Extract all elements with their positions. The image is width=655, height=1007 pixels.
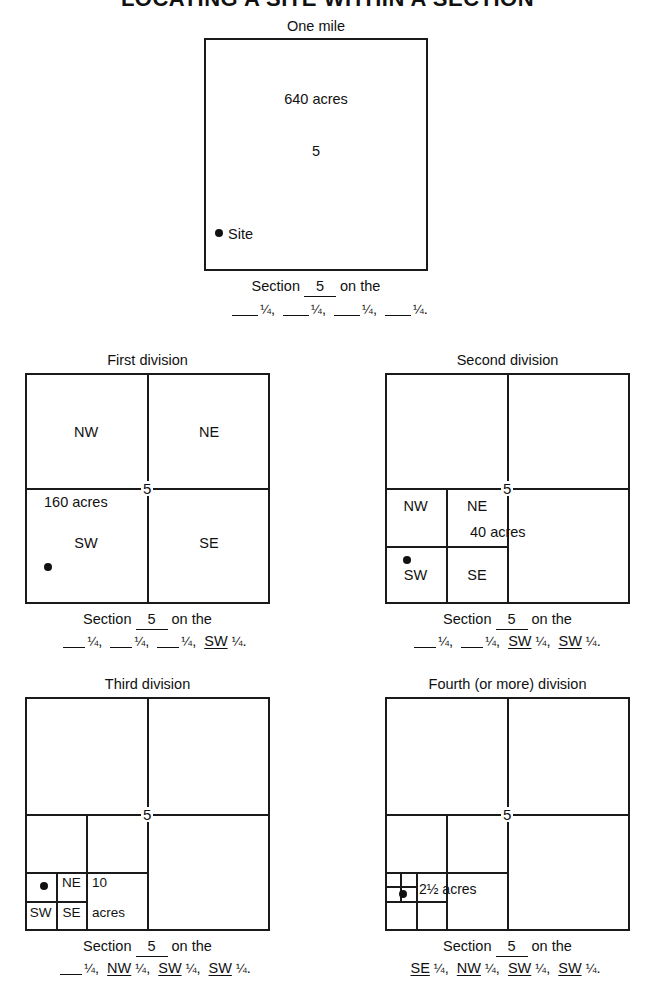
page-title: LOCATING A SITE WITHIN A SECTION bbox=[0, 0, 655, 12]
second-division-sub-hline bbox=[385, 546, 507, 548]
caption-suffix: on the bbox=[172, 611, 212, 627]
quarter-slot-4: SW ¼. bbox=[558, 960, 600, 976]
caption-suffix: on the bbox=[532, 938, 572, 954]
quarter-slot-3: ¼, bbox=[157, 633, 196, 649]
quarter-slot-2: ¼, bbox=[283, 301, 326, 317]
third-division-sub-hline bbox=[25, 872, 147, 874]
quarter-slot-4: ¼. bbox=[385, 301, 428, 317]
second-division-caption-line1: Section 5 on the bbox=[385, 609, 630, 630]
caption-prefix: Section bbox=[443, 938, 491, 954]
fourth-division-caption-line1: Section 5 on the bbox=[385, 936, 630, 957]
fourth-division-section-number: 5 bbox=[501, 807, 513, 822]
first-division-acres: 160 acres bbox=[44, 494, 108, 510]
full-section-acres: 640 acres bbox=[204, 91, 428, 107]
third-division-sub2-hline bbox=[25, 901, 86, 903]
quarter-slot-2: NW ¼, bbox=[107, 960, 150, 976]
second-division-sw: SW bbox=[385, 567, 446, 583]
quarter-slot-2: ¼, bbox=[461, 633, 500, 649]
fourth-division-acres: 2½ acres bbox=[419, 881, 477, 897]
first-division-nw: NW bbox=[25, 424, 147, 440]
quarter-slot-3: SW ¼, bbox=[158, 960, 200, 976]
caption-section-number: 5 bbox=[136, 609, 168, 630]
caption-prefix: Section bbox=[83, 611, 131, 627]
quarter-slot-1: ¼, bbox=[60, 960, 99, 976]
one-mile-label: One mile bbox=[204, 18, 428, 34]
third-division-caption-line1: Section 5 on the bbox=[25, 936, 270, 957]
quarter-slot-2: ¼, bbox=[110, 633, 149, 649]
fourth-division-sub-hline bbox=[385, 872, 507, 874]
full-section-caption-line1: Section 5 on the bbox=[204, 276, 428, 297]
caption-section-number: 5 bbox=[304, 276, 336, 297]
quarter-slot-1: SE ¼, bbox=[410, 960, 448, 976]
third-division-section-number: 5 bbox=[141, 807, 153, 822]
second-division-nw: NW bbox=[385, 498, 446, 514]
third-division-caption-line2: ¼, NW ¼, SW ¼, SW ¼. bbox=[8, 958, 303, 979]
second-division-section-number: 5 bbox=[501, 481, 513, 496]
third-division-heading: Third division bbox=[25, 676, 270, 692]
caption-prefix: Section bbox=[443, 611, 491, 627]
fourth-division-sub3-hline bbox=[385, 886, 416, 888]
second-division-ne: NE bbox=[447, 498, 507, 514]
second-division-se: SE bbox=[447, 567, 507, 583]
caption-prefix: Section bbox=[252, 278, 300, 294]
quarter-slot-2: NW ¼, bbox=[457, 960, 500, 976]
quarter-slot-1: ¼, bbox=[414, 633, 453, 649]
caption-suffix: on the bbox=[532, 611, 572, 627]
quarter-slot-3: ¼, bbox=[334, 301, 377, 317]
quarter-slot-1: ¼, bbox=[63, 633, 102, 649]
quarter-slot-4: SW ¼. bbox=[209, 960, 251, 976]
first-division-caption-line2: ¼, ¼, ¼, SW ¼. bbox=[10, 631, 300, 652]
site-dot-icon bbox=[40, 882, 48, 890]
first-division-caption-line1: Section 5 on the bbox=[25, 609, 270, 630]
third-division-acres-unit: acres bbox=[92, 905, 125, 920]
third-division-sw: SW bbox=[25, 905, 56, 920]
quarter-slot-3: SW ¼, bbox=[508, 633, 550, 649]
second-division-heading: Second division bbox=[385, 352, 630, 368]
section-diagram-page: LOCATING A SITE WITHIN A SECTION One mil… bbox=[0, 0, 655, 1007]
fourth-division-caption-line2: SE ¼, NW ¼, SW ¼, SW ¼. bbox=[358, 958, 653, 979]
site-dot-icon bbox=[215, 229, 223, 237]
fourth-division-sub2-hline bbox=[385, 901, 446, 903]
quarter-slot-4: SW ¼. bbox=[558, 633, 600, 649]
quarter-slot-4: SW ¼. bbox=[204, 633, 246, 649]
first-division-ne: NE bbox=[148, 424, 270, 440]
third-division-ne: NE bbox=[57, 875, 86, 890]
first-division-sw: SW bbox=[25, 535, 147, 551]
first-division-heading: First division bbox=[25, 352, 270, 368]
site-dot-icon bbox=[403, 556, 411, 564]
caption-prefix: Section bbox=[83, 938, 131, 954]
quarter-slot-3: SW ¼, bbox=[508, 960, 550, 976]
caption-section-number: 5 bbox=[496, 609, 528, 630]
full-section-caption-line2: ¼, ¼, ¼, ¼. bbox=[140, 299, 520, 320]
caption-suffix: on the bbox=[172, 938, 212, 954]
fourth-division-heading: Fourth (or more) division bbox=[385, 676, 630, 692]
second-division-caption-line2: ¼, ¼, SW ¼, SW ¼. bbox=[360, 631, 655, 652]
site-label: Site bbox=[228, 226, 253, 242]
full-section-number: 5 bbox=[204, 143, 428, 159]
caption-section-number: 5 bbox=[136, 936, 168, 957]
first-division-section-number: 5 bbox=[141, 481, 153, 496]
caption-suffix: on the bbox=[340, 278, 380, 294]
first-division-se: SE bbox=[148, 535, 270, 551]
quarter-slot-1: ¼, bbox=[232, 301, 275, 317]
second-division-acres: 40 acres bbox=[470, 524, 526, 540]
site-dot-icon bbox=[44, 563, 52, 571]
site-dot-icon bbox=[399, 890, 407, 898]
caption-section-number: 5 bbox=[496, 936, 528, 957]
third-division-acres-number: 10 bbox=[92, 875, 107, 890]
third-division-se: SE bbox=[57, 905, 86, 920]
